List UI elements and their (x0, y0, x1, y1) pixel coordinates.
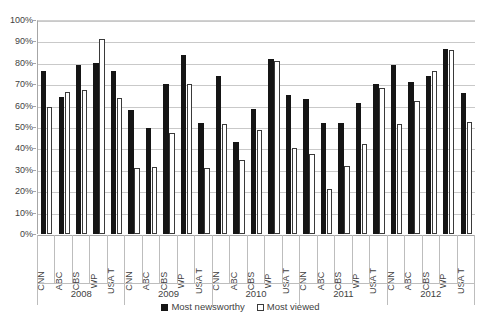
bar-most-newsworthy (443, 49, 448, 234)
bar-most-newsworthy (146, 128, 151, 234)
bar-most-viewed (257, 130, 262, 234)
bar-most-viewed (327, 189, 332, 234)
legend-item: Most viewed (257, 302, 320, 312)
bar-most-newsworthy (373, 84, 378, 234)
bar-most-viewed (134, 168, 139, 234)
category-tick-cell: ABC (405, 235, 422, 283)
bar-most-newsworthy (268, 59, 273, 234)
group-axis-label: 2009 (158, 289, 179, 299)
legend-label: Most viewed (267, 302, 320, 312)
bar-most-newsworthy (356, 103, 361, 234)
bar-most-newsworthy (163, 84, 168, 234)
bars-layer (38, 20, 475, 234)
y-axis-tick-label: 80% (0, 58, 33, 67)
y-axis-tick (33, 148, 36, 149)
y-axis-tick-label: 70% (0, 80, 33, 89)
bar-most-viewed (397, 124, 402, 234)
y-axis-tick (33, 234, 36, 235)
bar-most-viewed (432, 71, 437, 234)
bar-most-newsworthy (303, 99, 308, 234)
bar-most-newsworthy (391, 65, 396, 234)
legend-swatch-icon (161, 304, 168, 311)
bar-most-viewed (117, 98, 122, 234)
y-axis: 0%10%20%30%40%50%60%70%80%90%100% (0, 20, 33, 234)
bar-most-viewed (169, 133, 174, 234)
bar-most-newsworthy (461, 93, 466, 234)
y-axis-tick (33, 63, 36, 64)
y-axis-tick (33, 127, 36, 128)
bar-most-viewed (99, 39, 104, 234)
y-axis-tick-label: 90% (0, 37, 33, 46)
y-axis-tick (33, 84, 36, 85)
bar-most-viewed (187, 84, 192, 234)
bar-most-newsworthy (216, 76, 221, 234)
bar-most-viewed (449, 50, 454, 234)
category-tick-cell: USA T (458, 235, 475, 283)
bar-most-newsworthy (59, 97, 64, 234)
bar-chart: 0%10%20%30%40%50%60%70%80%90%100% CNNABC… (0, 0, 481, 320)
bar-most-newsworthy (338, 123, 343, 234)
bar-most-newsworthy (181, 55, 186, 234)
bar-most-newsworthy (321, 123, 326, 234)
bar-most-viewed (379, 88, 384, 234)
category-tick-cell: CNN (38, 235, 55, 283)
bar-most-newsworthy (426, 76, 431, 234)
legend-label: Most newsworthy (171, 302, 244, 312)
bar-most-viewed (467, 122, 472, 234)
category-tick-cell: ABC (143, 235, 160, 283)
bar-most-viewed (222, 124, 227, 234)
y-axis-tick (33, 170, 36, 171)
group-axis-label: 2012 (420, 289, 441, 299)
category-tick-cell: USA T (370, 235, 387, 283)
bar-most-viewed (344, 166, 349, 234)
group-axis-label: 2011 (333, 289, 353, 299)
category-tick-cell: WP (178, 235, 195, 283)
y-axis-tick-label: 10% (0, 208, 33, 217)
category-tick-cell: CBS (335, 235, 352, 283)
bar-most-viewed (239, 160, 244, 234)
bar-most-newsworthy (93, 63, 98, 234)
category-axis: CNNABCCBSWPUSA TCNNABCCBSWPUSA TCNNABCCB… (38, 235, 475, 283)
y-axis-tick-label: 40% (0, 144, 33, 153)
chart-legend: Most newsworthyMost viewed (0, 302, 481, 312)
bar-most-newsworthy (408, 82, 413, 234)
y-axis-tick-label: 50% (0, 123, 33, 132)
group-axis-label: 2010 (245, 289, 266, 299)
y-axis-tick (33, 106, 36, 107)
y-axis-tick (33, 41, 36, 42)
bar-most-viewed (309, 154, 314, 234)
bar-most-viewed (65, 92, 70, 234)
y-axis-tick-label: 100% (0, 16, 33, 25)
y-axis-tick (33, 213, 36, 214)
bar-most-newsworthy (286, 95, 291, 234)
category-tick-cell: CBS (73, 235, 90, 283)
group-axis-label: 2008 (71, 289, 92, 299)
bar-most-newsworthy (41, 71, 46, 234)
bar-most-viewed (82, 90, 87, 234)
bar-most-viewed (292, 148, 297, 234)
legend-item: Most newsworthy (161, 302, 244, 312)
bar-most-newsworthy (76, 65, 81, 234)
y-axis-tick-label: 30% (0, 165, 33, 174)
y-axis-tick (33, 20, 36, 21)
bar-most-newsworthy (111, 71, 116, 234)
bar-most-viewed (274, 61, 279, 234)
bar-most-newsworthy (198, 123, 203, 234)
category-tick-cell: CNN (213, 235, 230, 283)
y-axis-tick-label: 0% (0, 230, 33, 239)
bar-most-viewed (47, 107, 52, 234)
legend-swatch-icon (257, 304, 264, 311)
y-axis-tick (33, 191, 36, 192)
y-axis-tick-label: 20% (0, 187, 33, 196)
bar-most-viewed (204, 168, 209, 234)
bar-most-viewed (362, 144, 367, 234)
bar-most-newsworthy (233, 142, 238, 234)
category-tick-cell: WP (440, 235, 457, 283)
bar-most-newsworthy (128, 110, 133, 234)
bar-most-viewed (414, 101, 419, 234)
bar-most-viewed (152, 167, 157, 234)
bar-most-newsworthy (251, 109, 256, 234)
y-axis-tick-label: 60% (0, 101, 33, 110)
category-tick-cell: USA T (108, 235, 125, 283)
